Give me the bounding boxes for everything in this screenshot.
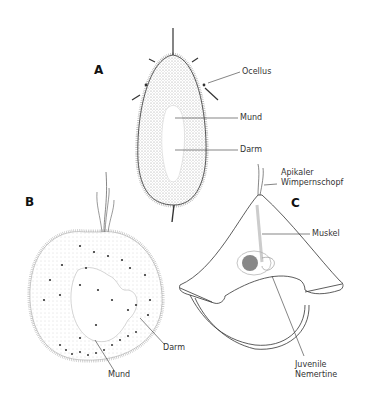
annotation-nemertine: Nemertine (295, 370, 337, 380)
annotation-a-darm: Darm (240, 145, 262, 155)
annotation-apikaler: Apikaler (281, 168, 314, 178)
annotation-b-mund: Mund (108, 370, 130, 380)
annotation-a-mund: Mund (240, 113, 262, 123)
panel-label-b: B (25, 195, 34, 209)
annotation-juvenile: Juvenile (295, 360, 327, 370)
panel-b-larva (30, 172, 165, 372)
annotation-wimpernschopf: Wimpernschopf (281, 178, 343, 188)
panel-a-larva (132, 28, 240, 222)
annotation-muskel: Muskel (312, 229, 340, 239)
panel-c-pilidium (179, 164, 343, 356)
annotation-ocellus: Ocellus (242, 67, 271, 77)
panel-label-c: C (291, 196, 300, 210)
panel-label-a: A (94, 63, 103, 77)
figure-illustration (0, 0, 368, 400)
annotation-b-darm: Darm (163, 343, 185, 353)
